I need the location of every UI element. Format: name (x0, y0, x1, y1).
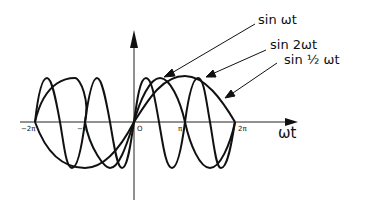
curve-sin-2wt (35, 78, 235, 168)
tick-pi: π (178, 125, 182, 133)
sine-waves-diagram (0, 0, 369, 212)
arrowhead-icon (164, 69, 175, 77)
tick-2pi: 2π (238, 125, 247, 133)
leader-sin-wt (170, 24, 255, 74)
arrowhead-icon (225, 90, 235, 98)
arrowhead-icon (206, 70, 216, 77)
tick-neg-2pi: −2π (21, 125, 36, 133)
y-axis-arrow-icon (130, 30, 138, 48)
label-sin-half-wt: sin ½ ωt (284, 52, 339, 67)
tick-origin: O (137, 125, 143, 133)
x-axis-label: ωt (278, 124, 296, 142)
tick-neg-pi: −π (77, 125, 87, 133)
label-sin-2wt: sin 2ωt (270, 37, 317, 52)
leader-sin-2wt (212, 50, 266, 74)
leader-sin-half-wt (230, 63, 277, 95)
label-sin-wt: sin ωt (258, 12, 297, 27)
